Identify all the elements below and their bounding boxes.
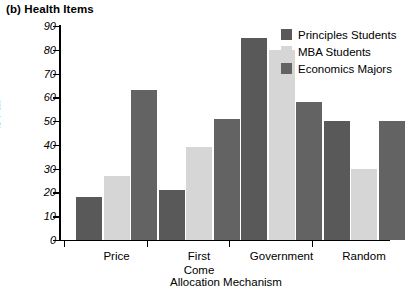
y-axis-tick-label: 50 [44,113,56,129]
x-axis-title: Allocation Mechanism [0,276,397,288]
bar [159,190,185,240]
x-axis-tick-label: Government [237,250,327,264]
bar [269,50,295,240]
legend-swatch [281,46,292,57]
legend-label: Principles Students [298,29,396,41]
legend-item: Economics Majors [281,60,396,77]
bar [324,121,350,240]
x-axis-group-separator [147,240,148,247]
x-axis-tick-label: Random [319,250,409,264]
bar [76,197,102,240]
legend-item: Principles Students [281,26,396,43]
x-axis-group-separator [64,240,65,247]
bar [131,90,157,240]
y-axis-tick-label: 80 [44,42,56,58]
x-axis-tick-label: First Come [154,250,244,277]
y-axis-tick-label: 20 [44,184,56,200]
y-axis-tick-label: 90 [44,18,56,34]
y-axis-tick-label: 70 [44,66,56,82]
bar-group [76,26,157,240]
x-axis-group-separator [229,240,230,247]
legend-label: MBA Students [298,46,371,58]
y-axis-tick-label: 30 [44,161,56,177]
y-axis-title-text: Percent Saying Allocation Mechanism is F… [0,14,3,214]
bar [296,102,322,240]
y-axis-title: Percent Saying Allocation Mechanism is F… [0,0,16,14]
legend-swatch [281,63,292,74]
y-axis-tick-label: 10 [44,208,56,224]
bar [214,119,240,240]
bar [186,147,212,240]
chart-legend: Principles StudentsMBA StudentsEconomics… [281,26,396,77]
legend-swatch [281,29,292,40]
y-axis-tick-label: 0 [50,232,56,248]
legend-item: MBA Students [281,43,396,60]
x-axis-group-separator [312,240,313,247]
bar [379,121,405,240]
bar [104,176,130,240]
bar-group [159,26,240,240]
y-axis-tick-label: 60 [44,89,56,105]
x-axis-tick-label: Price [72,250,162,264]
legend-label: Economics Majors [298,63,392,75]
y-axis-tick-label: 40 [44,137,56,153]
bar [351,169,377,240]
bar [241,38,267,240]
figure-caption: (b) Health Items [6,3,94,15]
